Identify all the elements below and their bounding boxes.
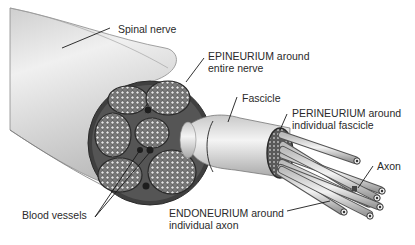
- label-perineurium-line1: PERINEURIUM around: [292, 107, 401, 119]
- label-fascicle-text: Fascicle: [242, 92, 281, 104]
- label-epineurium-line1: EPINEURIUM around: [208, 50, 310, 62]
- label-spinal-nerve-text: Spinal nerve: [118, 23, 176, 35]
- label-epineurium: EPINEURIUM around entire nerve: [208, 50, 310, 74]
- blood-vessel: [143, 183, 150, 190]
- fascicle-cross-section: [108, 86, 148, 114]
- label-perineurium-line2: individual fascicle: [292, 119, 401, 131]
- leader-endoneurium: [287, 201, 330, 211]
- fascicle-cross-section: [135, 118, 169, 148]
- axon-bundle: [280, 135, 385, 219]
- leader-epineurium: [186, 58, 204, 82]
- label-axon: Axon: [377, 160, 401, 172]
- label-fascicle: Fascicle: [242, 92, 281, 104]
- label-axon-text: Axon: [377, 160, 401, 172]
- label-perineurium: PERINEURIUM around individual fascicle: [292, 107, 401, 131]
- label-endoneurium-line1: ENDONEURIUM around: [169, 207, 284, 219]
- label-blood-vessels-text: Blood vessels: [22, 209, 87, 221]
- fascicle-cross-section: [95, 113, 131, 157]
- label-endoneurium: ENDONEURIUM around individual axon: [169, 207, 284, 231]
- fascicle-cross-section: [146, 81, 190, 115]
- label-spinal-nerve: Spinal nerve: [118, 23, 176, 35]
- label-endoneurium-line2: individual axon: [169, 219, 284, 231]
- label-epineurium-line2: entire nerve: [208, 62, 310, 74]
- blood-vessel: [144, 106, 152, 114]
- label-blood-vessels: Blood vessels: [22, 209, 87, 221]
